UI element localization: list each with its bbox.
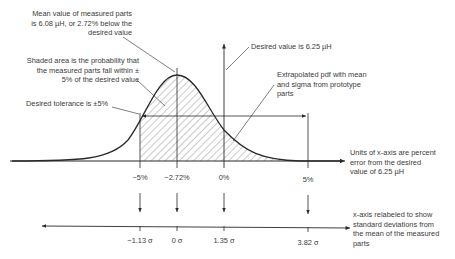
desired-annotation: Desired value is 6.25 µH [251,42,332,52]
relabel-line-4: parts [353,239,439,249]
units-annotation: Units of x-axis are percent error from t… [350,148,436,177]
shaded-annotation: Shaded area is the probability that the … [4,56,139,85]
pdf-annotation: Extrapolated pdf with mean and sigma fro… [277,70,367,99]
sigma-tick-label: −1.13 σ [120,236,160,246]
shaded-line-3: 5% of the desired value [4,75,139,85]
shaded-line-1: Shaded area is the probability that [4,56,139,66]
percent-tick-label: 5% [293,175,323,185]
percent-tick-label: −5% [125,173,155,183]
percent-tick-label: 0% [209,173,239,183]
units-line-3: value of 6.25 µH [350,167,436,177]
relabel-line-1: x-axis relabeled to show [353,210,439,220]
tolerance-annotation: Desired tolerance is ±5% [26,99,108,109]
relabel-line-3: the mean of the measured [353,229,439,239]
sigma-tick-label: 1.35 σ [204,236,244,246]
pdf-line-2: and sigma from prototype [277,80,367,90]
shaded-line-2: the measured parts fall within ± [4,66,139,76]
relabel-line-2: standard deviations from [353,220,439,230]
desired-leader [226,47,249,70]
percent-tick-label: −2.72% [157,173,197,183]
mean-line-1: Mean value of measured parts [20,9,132,19]
pdf-line-1: Extrapolated pdf with mean [277,70,367,80]
relabel-annotation: x-axis relabeled to show standard deviat… [353,210,439,248]
mean-annotation: Mean value of measured parts is 6.08 µH,… [20,9,132,38]
units-line-2: error from the desired [350,158,436,168]
sigma-axis [42,226,350,228]
pdf-leader [233,85,274,141]
units-line-1: Units of x-axis are percent [350,148,436,158]
tolerance-leader [112,107,139,114]
sigma-tick-label: 0 σ [162,236,192,246]
mean-line-2: is 6.08 µH, or 2.72% below the [20,19,132,29]
sigma-tick-label: 3.82 σ [288,238,328,248]
mean-line-3: desired value [20,28,132,38]
pdf-line-3: parts [277,89,367,99]
